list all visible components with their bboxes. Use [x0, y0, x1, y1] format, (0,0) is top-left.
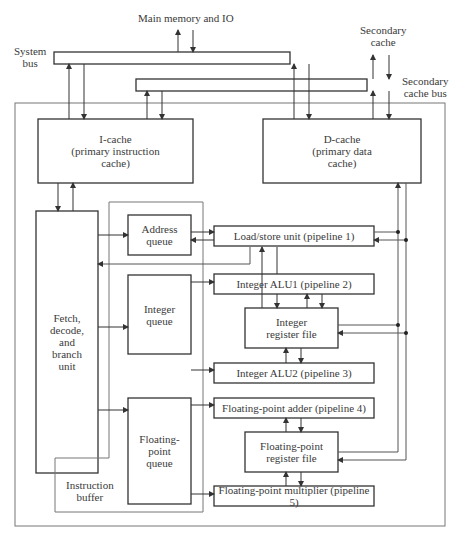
icache-label: I-cache (primary instruction cache) [71, 133, 159, 169]
fetch-label: Fetch, decode, and branch unit [50, 312, 84, 372]
system-bus-label: System bus [14, 45, 46, 69]
instruction-buffer-label: Instruction buffer [66, 479, 114, 503]
fp-queue-label: Floating- point queue [139, 433, 179, 469]
integer-queue-block: Integer queue [128, 275, 191, 354]
integer-alu2-block: Integer ALU2 (pipeline 3) [214, 363, 374, 383]
address-queue-block: Address queue [128, 215, 191, 255]
system-bus [54, 52, 290, 64]
fp-multiplier-block: Floating-point multiplier (pipeline 5) [214, 486, 374, 506]
integer-alu1-block: Integer ALU1 (pipeline 2) [214, 274, 374, 294]
load-store-unit-block: Load/store unit (pipeline 1) [214, 226, 374, 246]
secondary-cache-bus-label: Secondary cache bus [402, 75, 448, 99]
fp-regfile-label: Floating-point register file [260, 440, 323, 464]
integer-register-file-block: Integer register file [245, 308, 338, 348]
address-queue-label: Address queue [141, 223, 177, 247]
dcache-label: D-cache (primary data cache) [312, 133, 372, 169]
fetch-decode-branch-block: Fetch, decode, and branch unit [36, 211, 98, 473]
secondary-cache-label: Secondary cache [360, 24, 406, 48]
int-alu1-label: Integer ALU1 (pipeline 2) [236, 278, 351, 290]
dcache-block: D-cache (primary data cache) [263, 119, 421, 183]
int-regfile-label: Integer register file [266, 316, 316, 340]
int-alu2-label: Integer ALU2 (pipeline 3) [236, 367, 351, 379]
secondary-cache-bus [136, 79, 367, 91]
icache-block: I-cache (primary instruction cache) [38, 119, 193, 183]
fp-adder-block: Floating-point adder (pipeline 4) [214, 398, 374, 418]
load-store-label: Load/store unit (pipeline 1) [234, 230, 355, 242]
fp-mult-label: Floating-point multiplier (pipeline 5) [214, 484, 374, 508]
fp-queue-block: Floating- point queue [128, 398, 191, 504]
fp-adder-label: Floating-point adder (pipeline 4) [222, 402, 366, 414]
main-memory-label: Main memory and IO [138, 12, 234, 24]
fp-register-file-block: Floating-point register file [245, 432, 338, 472]
integer-queue-label: Integer queue [144, 303, 175, 327]
